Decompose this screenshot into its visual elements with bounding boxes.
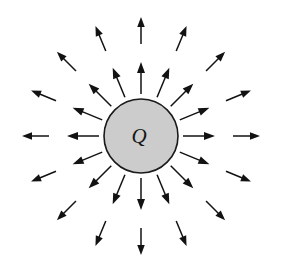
field-diagram-canvas: Q (0, 0, 287, 273)
electric-field-figure: Q (0, 0, 287, 273)
charge-label: Q (131, 124, 146, 148)
